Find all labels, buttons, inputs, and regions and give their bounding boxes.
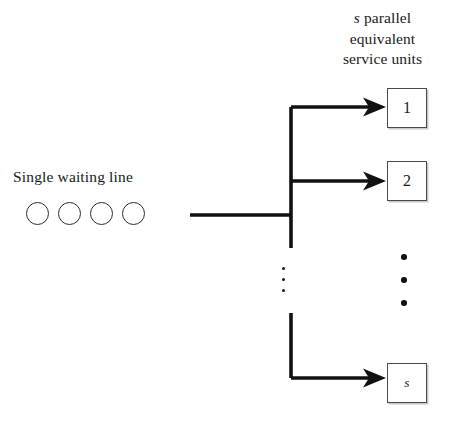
- waiting-line-label: Single waiting line: [13, 168, 133, 186]
- customer-circle: [58, 202, 81, 225]
- caption-line-2: equivalent: [300, 29, 465, 50]
- service-unit-box-1: 1: [387, 88, 427, 128]
- caption-line-3: service units: [300, 49, 465, 70]
- ellipsis-dot: [401, 254, 407, 260]
- caption-line-1-rest: parallel: [360, 9, 411, 26]
- service-unit-label: s: [404, 375, 409, 391]
- ellipsis-dot: [282, 278, 285, 281]
- ellipsis-dot: [401, 300, 407, 306]
- customer-circle: [26, 202, 49, 225]
- ellipsis-dot: [401, 277, 407, 283]
- service-unit-label: 1: [403, 99, 411, 117]
- service-units-caption: s parallel equivalent service units: [300, 8, 465, 70]
- service-unit-box-2: 2: [387, 161, 427, 201]
- service-units-ellipsis: [401, 254, 407, 306]
- caption-line-1: s parallel: [300, 8, 465, 29]
- trunk-ellipsis: [282, 267, 285, 292]
- ellipsis-dot: [282, 289, 285, 292]
- customer-circle: [122, 202, 145, 225]
- service-unit-box-s: s: [387, 363, 427, 403]
- ellipsis-dot: [282, 267, 285, 270]
- queueing-diagram: s parallel equivalent service units Sing…: [0, 0, 473, 422]
- waiting-line-customers: [26, 202, 145, 225]
- customer-circle: [90, 202, 113, 225]
- service-unit-label: 2: [403, 172, 411, 190]
